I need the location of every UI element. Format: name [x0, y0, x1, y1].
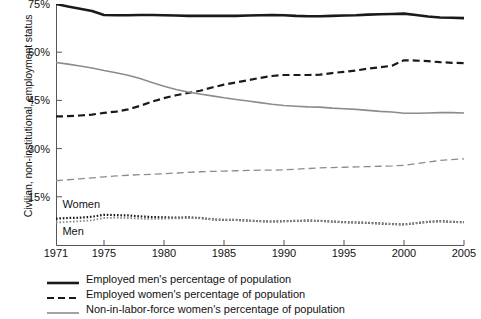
y-tick-label: 30% — [10, 144, 50, 154]
legend-label: Non-in-labor-force women's percentage of… — [86, 303, 345, 315]
y-tick-label: 75% — [10, 0, 50, 9]
chart-legend: Employed men's percentage of populationE… — [47, 272, 468, 317]
chart-canvas — [56, 4, 470, 251]
legend-swatch — [47, 304, 79, 314]
series-inline-label: Women — [62, 198, 100, 210]
y-tick-label: 15% — [10, 192, 50, 202]
series-line — [56, 60, 464, 116]
series-line — [56, 4, 464, 18]
y-tick-label: 60% — [10, 47, 50, 57]
series-line — [56, 159, 464, 181]
plot-area — [56, 4, 464, 245]
y-tick-label: 45% — [10, 95, 50, 105]
legend-item: Employed men's percentage of population — [47, 272, 468, 286]
legend-item: Non-in-labor-force women's percentage of… — [47, 302, 468, 316]
legend-label: Employed women's percentage of populatio… — [86, 288, 305, 300]
legend-item: Employed women's percentage of populatio… — [47, 287, 468, 301]
series-line — [56, 62, 464, 113]
legend-swatch — [47, 289, 79, 299]
legend-label: Employed men's percentage of population — [86, 273, 291, 285]
legend-swatch — [47, 274, 79, 284]
y-axis-tick-labels: 15%30%45%60%75% — [4, 0, 50, 250]
series-inline-label: Men — [62, 225, 83, 237]
series-line — [56, 215, 464, 225]
